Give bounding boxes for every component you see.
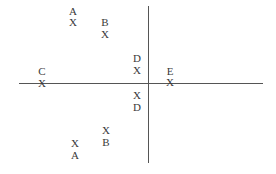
- point-label-d-bottom: D: [133, 102, 141, 113]
- vertical-axis: [148, 6, 149, 163]
- x-marker-icon: X: [133, 90, 141, 101]
- x-marker-icon: X: [166, 77, 174, 88]
- point-label-b-bottom: B: [102, 137, 109, 148]
- point-label-b-top: B: [101, 17, 108, 28]
- x-marker-icon: X: [102, 125, 110, 136]
- horizontal-axis: [19, 83, 263, 84]
- quadrant-diagram: AXBXCXDXEXDXBXAX: [0, 0, 276, 174]
- x-marker-icon: X: [133, 65, 141, 76]
- x-marker-icon: X: [71, 138, 79, 149]
- x-marker-icon: X: [101, 29, 109, 40]
- point-label-d-top: D: [133, 53, 141, 64]
- point-label-c: C: [38, 66, 45, 77]
- x-marker-icon: X: [69, 17, 77, 28]
- point-label-a-bottom: A: [71, 150, 79, 161]
- x-marker-icon: X: [38, 78, 46, 89]
